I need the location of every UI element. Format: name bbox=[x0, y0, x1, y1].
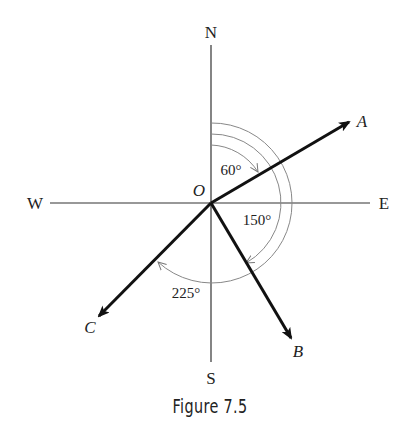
compass-bearing-diagram: N S W E O A B C 60° 150° 225° bbox=[0, 0, 420, 435]
label-b: B bbox=[293, 342, 304, 361]
label-c: C bbox=[84, 318, 96, 337]
label-origin: O bbox=[193, 181, 205, 200]
label-a: A bbox=[356, 112, 368, 131]
label-north: N bbox=[205, 23, 217, 42]
angle-label-60: 60° bbox=[221, 162, 242, 178]
figure-caption: Figure 7.5 bbox=[59, 394, 361, 418]
angle-label-150: 150° bbox=[243, 212, 272, 228]
label-east: E bbox=[379, 194, 389, 213]
label-west: W bbox=[27, 194, 44, 213]
angle-label-225: 225° bbox=[172, 285, 201, 301]
label-south: S bbox=[206, 369, 215, 388]
